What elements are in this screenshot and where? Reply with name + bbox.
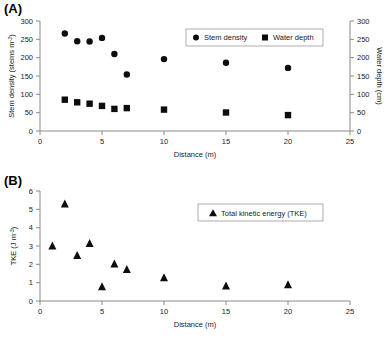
panel-b-xtick-20: 20 [284,307,292,316]
data-point [110,260,118,268]
data-point [99,35,105,41]
panel-b-xtick-0: 0 [38,307,42,316]
panel-a: (A) 0 50 100 150 200 [0,0,391,171]
panel-a-legend-label-0: Stem density [204,33,248,42]
panel-a-y2tick-300: 300 [357,17,370,26]
data-point [222,282,230,290]
panel-a-y2tick-150: 150 [357,72,370,81]
figure-container: (A) 0 50 100 150 200 [0,0,391,342]
panel-a-y2-ticks [350,21,354,131]
panel-b-xtick-25: 25 [346,307,354,316]
panel-a-xtick-0: 0 [38,137,42,146]
panel-b-ytick-5: 5 [29,205,33,214]
panel-a-y-axis-title: Stem density (stems m-2) [7,34,17,118]
panel-a-x-tick-labels: 0 5 10 15 20 25 [38,137,354,146]
panel-a-x-axis-title: Distance (m) [174,150,217,159]
panel-a-xtick-25: 25 [346,137,354,146]
panel-b-ytick-2: 2 [29,260,33,269]
data-point [74,38,80,44]
panel-a-ytick-50: 50 [25,108,33,117]
panel-b-y-axis-title: TKE (J m-3) [9,226,19,265]
panel-a-ytick-0: 0 [29,127,33,136]
data-point [160,273,168,281]
panel-b-x-ticks [40,301,350,305]
data-point [73,251,81,259]
panel-a-y2tick-100: 100 [357,90,370,99]
panel-a-xtick-10: 10 [160,137,168,146]
data-point [86,38,92,44]
panel-a-legend-label-1: Water depth [273,33,314,42]
data-point [98,282,106,290]
data-point [99,103,105,109]
panel-a-xtick-20: 20 [284,137,292,146]
panel-a-ytick-250: 250 [20,35,33,44]
panel-a-xtick-15: 15 [222,137,230,146]
panel-b-legend-label-0: Total kinetic energy (TKE) [221,209,307,218]
panel-a-ytick-200: 200 [20,53,33,62]
square-marker-icon [262,35,268,41]
data-point [111,106,117,112]
data-point [62,30,68,36]
data-point [223,60,229,66]
panel-b-ytick-3: 3 [29,242,33,251]
data-point [285,65,291,71]
circle-marker-icon [193,35,199,41]
panel-b-xtick-5: 5 [100,307,104,316]
data-point [123,265,131,273]
panel-b-ytick-6: 6 [29,187,33,196]
panel-b-x-tick-labels: 0 5 10 15 20 25 [38,307,354,316]
data-point [124,71,130,77]
panel-a-label: (A) [4,1,22,16]
panel-b-y-tick-labels: 0 1 2 3 4 5 6 [29,187,33,306]
panel-a-y2tick-0: 0 [357,127,361,136]
panel-b-xtick-10: 10 [160,307,168,316]
panel-a-legend[interactable]: Stem density Water depth [186,29,323,46]
panel-a-y2tick-50: 50 [357,108,365,117]
panel-a-y2tick-250: 250 [357,35,370,44]
panel-b-ytick-1: 1 [29,278,33,287]
panel-b-y-ticks [36,191,40,301]
data-point [86,101,92,107]
panel-b: (B) 0 1 2 3 4 5 6 [0,171,391,342]
panel-a-y2-axis-title: Water depth (cm) [375,47,384,105]
data-point [285,112,291,118]
data-point [161,106,167,112]
panel-b-label: (B) [4,173,22,188]
panel-b-ytick-0: 0 [29,297,33,306]
panel-a-series-water-depth [62,97,292,119]
panel-b-x-axis-title: Distance (m) [174,320,217,329]
panel-a-x-ticks [40,131,350,135]
panel-b-legend[interactable]: Total kinetic energy (TKE) [198,204,323,221]
panel-b-ytick-4: 4 [29,223,33,232]
data-point [48,242,56,250]
panel-a-y-tick-labels: 0 50 100 150 200 250 300 [20,17,33,136]
panel-a-y2tick-200: 200 [357,53,370,62]
panel-a-y2-tick-labels: 0 50 100 150 200 250 300 [357,17,370,136]
panel-a-plot: 0 50 100 150 200 250 300 0 50 [0,0,391,171]
panel-b-plot: 0 1 2 3 4 5 6 0 5 10 15 [0,171,391,342]
data-point [74,99,80,105]
data-point [161,56,167,62]
data-point [61,200,69,208]
data-point [223,109,229,115]
panel-b-xtick-15: 15 [222,307,230,316]
panel-a-ytick-300: 300 [20,17,33,26]
data-point [62,97,68,103]
panel-a-ytick-150: 150 [20,72,33,81]
panel-a-ytick-100: 100 [20,90,33,99]
data-point [111,51,117,57]
data-point [124,105,130,111]
data-point [284,280,292,288]
data-point [86,239,94,247]
panel-a-y-ticks [36,21,40,131]
panel-a-xtick-5: 5 [100,137,104,146]
